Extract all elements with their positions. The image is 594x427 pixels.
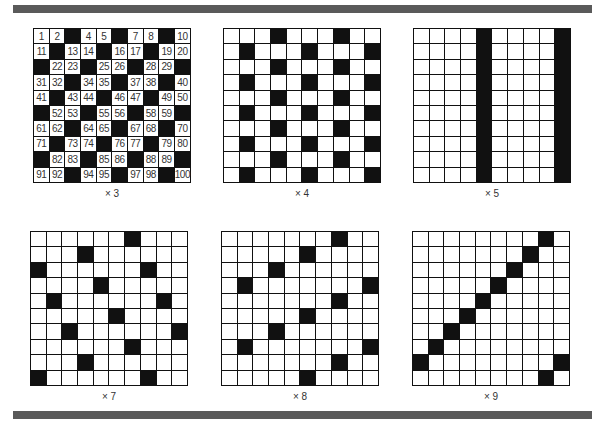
- panel-multiples-4: × 4: [223, 28, 383, 199]
- grid-cell: [444, 294, 459, 308]
- grid-cell: [524, 121, 539, 135]
- grid-cell: 7: [128, 29, 143, 43]
- grid-cell: [318, 60, 333, 74]
- grid-cell: [238, 324, 253, 338]
- grid-cell: [539, 263, 554, 277]
- grid-cell: 22: [50, 60, 65, 74]
- grid-cell: [492, 91, 507, 105]
- grid-cell: [350, 106, 365, 120]
- grid-cell: [172, 309, 187, 323]
- grid-cell: [109, 294, 124, 308]
- grid-cell: [269, 355, 284, 369]
- grid-cell: [363, 263, 378, 277]
- grid-cell: [240, 44, 255, 58]
- grid-cell: [507, 294, 522, 308]
- grid-cell: [62, 309, 77, 323]
- grid-cell: [141, 278, 156, 292]
- grid-cell: [477, 44, 492, 58]
- grid-cell: [429, 247, 444, 261]
- grid-cell: [316, 232, 331, 246]
- grid-cell: [47, 232, 62, 246]
- grid-cell: 64: [81, 121, 96, 135]
- grid-cell: [508, 168, 523, 182]
- grid-cell: [414, 137, 429, 151]
- grid-cell: [413, 278, 428, 292]
- grid-cell: [334, 91, 349, 105]
- grid-cell: [445, 75, 460, 89]
- grid-cell: [461, 106, 476, 120]
- grid-cell: [523, 324, 538, 338]
- grid-cell: [240, 106, 255, 120]
- grid-cell: [144, 137, 159, 151]
- grid-cell: 5: [97, 29, 112, 43]
- grid-cell: 20: [175, 44, 190, 58]
- grid-cell: [271, 91, 286, 105]
- grid-cell: [555, 91, 570, 105]
- grid-cell: [172, 355, 187, 369]
- grid-cell: [332, 278, 347, 292]
- grid-cell: [460, 355, 475, 369]
- grid-cell: [50, 137, 65, 151]
- grid-cell: [287, 137, 302, 151]
- grid-cell: [445, 91, 460, 105]
- grid-cell: [334, 137, 349, 151]
- grid-cell: [430, 44, 445, 58]
- grid-cell: 65: [97, 121, 112, 135]
- grid-cell: [430, 121, 445, 135]
- grid-cell: [508, 75, 523, 89]
- grid-cell: [269, 278, 284, 292]
- grid-cell: [491, 247, 506, 261]
- grid-cell: [461, 91, 476, 105]
- grid-cell: [62, 340, 77, 354]
- grid-cell: [125, 309, 140, 323]
- grid-cell: [31, 355, 46, 369]
- grid-cell: [414, 91, 429, 105]
- grid-cell: [109, 340, 124, 354]
- grid-cell: 13: [65, 44, 80, 58]
- grid-cell: [316, 309, 331, 323]
- grid-cell: [34, 60, 49, 74]
- number-grid: [30, 231, 188, 386]
- grid-cell: [238, 232, 253, 246]
- grid-cell: [78, 355, 93, 369]
- grid-cell: [429, 232, 444, 246]
- grid-cell: [414, 121, 429, 135]
- grid-cell: [222, 278, 237, 292]
- grid-cell: 58: [144, 106, 159, 120]
- grid-cell: [444, 263, 459, 277]
- grid-cell: 26: [112, 60, 127, 74]
- grid-cell: [555, 44, 570, 58]
- grid-cell: [332, 232, 347, 246]
- grid-cell: [224, 75, 239, 89]
- grid-cell: [81, 152, 96, 166]
- grid-cell: [125, 371, 140, 385]
- grid-cell: [31, 324, 46, 338]
- grid-cell: [539, 232, 554, 246]
- grid-cell: [334, 121, 349, 135]
- grid-cell: [444, 340, 459, 354]
- grid-cell: [334, 29, 349, 43]
- number-grid: [223, 28, 381, 183]
- grid-cell: [507, 355, 522, 369]
- grid-cell: [240, 29, 255, 43]
- grid-cell: [555, 121, 570, 135]
- grid-cell: 8: [144, 29, 159, 43]
- grid-cell: 61: [34, 121, 49, 135]
- grid-cell: 74: [81, 137, 96, 151]
- grid-cell: [300, 355, 315, 369]
- grid-cell: [47, 324, 62, 338]
- grid-cell: [476, 309, 491, 323]
- grid-cell: [413, 247, 428, 261]
- grid-cell: [413, 340, 428, 354]
- grid-cell: [255, 168, 270, 182]
- grid-cell: [224, 91, 239, 105]
- grid-cell: [287, 29, 302, 43]
- grid-cell: [554, 278, 569, 292]
- grid-cell: [316, 355, 331, 369]
- grid-cell: [78, 324, 93, 338]
- grid-cell: [491, 263, 506, 277]
- grid-cell: 80: [175, 137, 190, 151]
- grid-cell: [157, 278, 172, 292]
- grid-cell: [414, 75, 429, 89]
- panel-multiples-9: × 9: [412, 231, 572, 402]
